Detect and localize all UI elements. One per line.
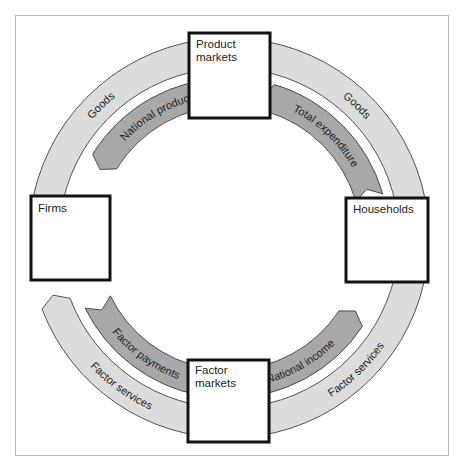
node-households: Households	[346, 198, 428, 282]
node-factor-markets: Factor markets	[188, 360, 269, 442]
factor-markets-label-line2: markets	[195, 377, 236, 389]
households-label: Households	[353, 203, 414, 215]
node-firms: Firms	[31, 196, 110, 280]
product-markets-label-line2: markets	[196, 51, 237, 63]
product-markets-label-line1: Product	[196, 38, 236, 50]
node-product-markets: Product markets	[189, 33, 270, 118]
circular-flow-diagram: GoodsGoodsNational productTotal expendit…	[0, 0, 456, 473]
factor-markets-label-line1: Factor	[195, 364, 228, 376]
firms-label: Firms	[38, 202, 67, 214]
